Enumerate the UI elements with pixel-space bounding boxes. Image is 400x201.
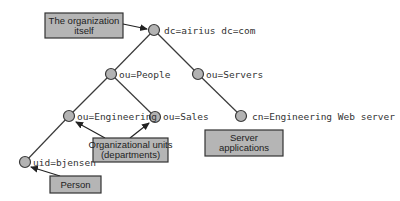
label-people: ou=People bbox=[119, 69, 171, 80]
ldap-tree-diagram: dc=airius dc=com ou=People ou=Servers ou… bbox=[0, 0, 400, 201]
label-servers: ou=Servers bbox=[206, 69, 263, 80]
node-bjensen[interactable] bbox=[20, 157, 31, 168]
arrow-orgunits-to-sales bbox=[130, 123, 149, 138]
arrow-organization-to-root bbox=[123, 24, 147, 29]
callout-serverapps-line2: applications bbox=[219, 142, 269, 153]
label-webserver: cn=Engineering Web server bbox=[252, 111, 395, 122]
callout-server-apps: Server applications bbox=[205, 130, 283, 156]
edge-root-servers bbox=[154, 30, 198, 74]
node-webserver[interactable] bbox=[236, 111, 247, 122]
edge-engineering-bjensen bbox=[25, 116, 69, 162]
callout-org-units: Organizational units (departments) bbox=[76, 122, 173, 162]
label-bjensen: uid=bjensen bbox=[33, 157, 96, 168]
label-root: dc=airius dc=com bbox=[164, 25, 256, 36]
callout-person-line1: Person bbox=[60, 179, 90, 190]
callout-organization: The organization itself bbox=[45, 13, 147, 38]
arrow-orgunits-to-engineering bbox=[76, 122, 105, 138]
label-engineering: ou=Engineering bbox=[77, 111, 157, 122]
node-root[interactable] bbox=[149, 25, 160, 36]
callout-organization-line2: itself bbox=[74, 25, 94, 36]
node-servers[interactable] bbox=[193, 69, 204, 80]
edge-people-engineering bbox=[69, 74, 111, 116]
label-sales: ou=Sales bbox=[163, 111, 209, 122]
node-engineering[interactable] bbox=[64, 111, 75, 122]
arrow-person-to-bjensen bbox=[31, 167, 60, 176]
node-people[interactable] bbox=[106, 69, 117, 80]
callout-person: Person bbox=[31, 167, 101, 193]
edge-servers-webserver bbox=[198, 74, 241, 116]
callout-orgunits-line2: (departments) bbox=[101, 149, 160, 160]
